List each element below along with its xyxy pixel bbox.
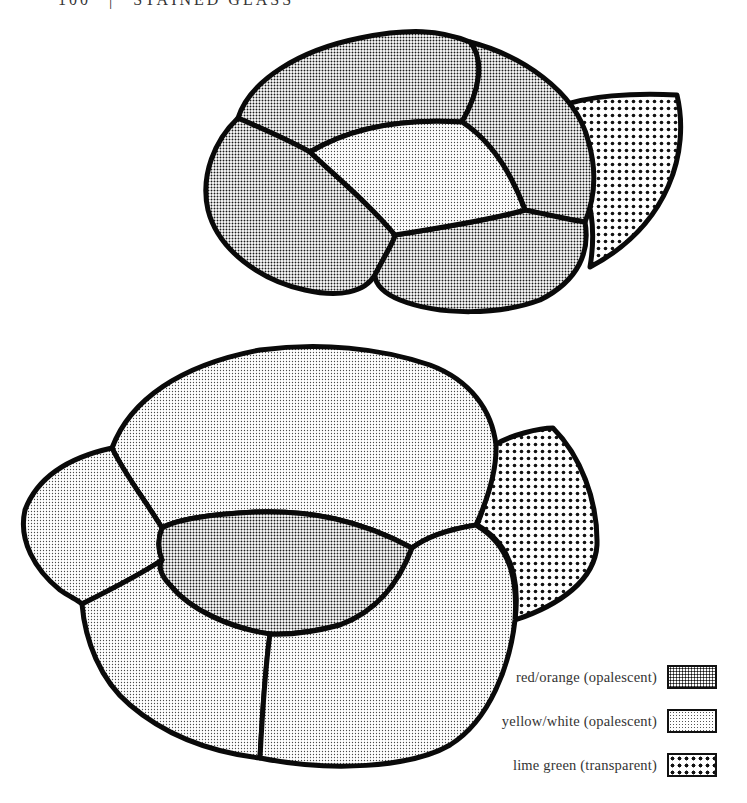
legend-label: yellow/white (opalescent) (502, 713, 657, 730)
legend-label: red/orange (opalescent) (516, 669, 657, 686)
top-flower (206, 32, 681, 312)
legend-item-yellow-white: yellow/white (opalescent) (297, 699, 717, 743)
red-orange-swatch-icon (667, 665, 717, 689)
legend: red/orange (opalescent) yellow/white (op… (297, 655, 717, 787)
legend-label: lime green (transparent) (513, 757, 657, 774)
legend-item-lime-green: lime green (transparent) (297, 743, 717, 787)
legend-item-red-orange: red/orange (opalescent) (297, 655, 717, 699)
lime-green-swatch-icon (667, 753, 717, 777)
yellow-white-swatch-icon (667, 709, 717, 733)
